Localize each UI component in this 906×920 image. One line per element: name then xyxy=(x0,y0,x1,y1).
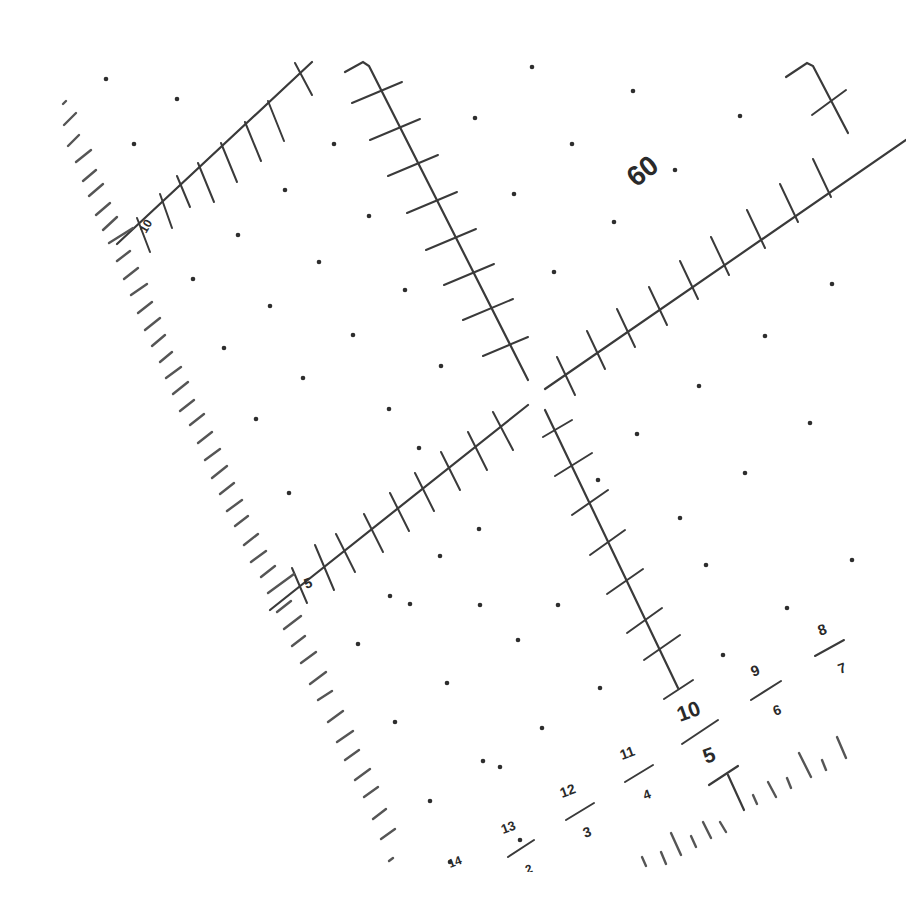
scale-top-12: 12 xyxy=(558,780,578,800)
scale-bottom-6: 6 xyxy=(771,701,784,719)
label-60: 60 xyxy=(621,149,665,193)
top-right-bracket xyxy=(786,63,848,133)
bottom-crop-mask xyxy=(0,872,906,920)
bottom-scale-bars xyxy=(508,640,844,857)
scale-top-10: 10 xyxy=(674,696,704,726)
scale-top-13: 13 xyxy=(499,818,518,837)
label-10-left: 10 xyxy=(136,217,155,236)
left-ruler xyxy=(63,101,395,861)
down-arm xyxy=(543,410,693,699)
scale-top-11: 11 xyxy=(618,743,638,763)
scale-bottom-5: 5 xyxy=(700,742,719,768)
dot-grid xyxy=(104,65,855,865)
scale-bottom-3: 3 xyxy=(581,823,594,841)
bottom-ruler xyxy=(642,737,846,866)
scale-top-8: 8 xyxy=(815,620,829,639)
scale-bottom-7: 7 xyxy=(836,659,849,677)
scale-top-9: 9 xyxy=(748,661,762,680)
up-arm xyxy=(345,62,528,380)
right-arm xyxy=(545,140,906,395)
scale-top-14: 14 xyxy=(446,853,464,871)
reticle-diagram: 60 10 5 8 7 9 6 10 5 11 4 12 3 13 2 14 xyxy=(0,0,906,920)
scale-bottom-4: 4 xyxy=(641,786,654,803)
